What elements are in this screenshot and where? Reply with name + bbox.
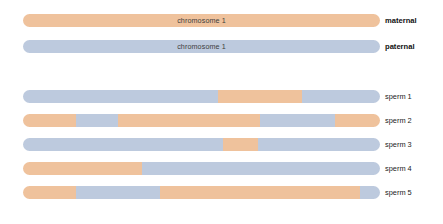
maternal-chromosome-segment-1-maternal [23, 14, 380, 27]
chromosome-row-sperm-4 [23, 162, 380, 175]
paternal-chromosome-segment-1-paternal [23, 40, 380, 53]
chromosome-row-maternal-chromosome: chromosome 1 [23, 14, 380, 27]
paternal-chromosome-label: paternal [385, 40, 415, 53]
sperm-3-segment-1-paternal [23, 138, 223, 151]
chromosome-row-sperm-2 [23, 114, 380, 127]
sperm-2-segment-1-maternal [23, 114, 76, 127]
chromosome-row-paternal-chromosome: chromosome 1 [23, 40, 380, 53]
paternal-chromosome-bar [23, 40, 380, 53]
sperm-1-segment-1-paternal [23, 90, 218, 103]
sperm-2-segment-2-paternal [76, 114, 118, 127]
sperm-4-bar [23, 162, 380, 175]
sperm-5-label: sperm 5 [385, 186, 412, 199]
sperm-2-label: sperm 2 [385, 114, 412, 127]
sperm-2-segment-4-paternal [260, 114, 335, 127]
sperm-1-segment-2-maternal [218, 90, 302, 103]
sperm-3-segment-2-maternal [223, 138, 258, 151]
sperm-4-segment-2-paternal [142, 162, 380, 175]
sperm-3-segment-3-paternal [258, 138, 380, 151]
sperm-4-segment-1-maternal [23, 162, 142, 175]
sperm-5-segment-3-maternal [160, 186, 360, 199]
chromosome-recombination-figure: chromosome 1maternalchromosome 1paternal… [0, 0, 443, 224]
sperm-1-segment-3-paternal [302, 90, 380, 103]
maternal-chromosome-label: maternal [385, 14, 417, 27]
chromosome-row-sperm-3 [23, 138, 380, 151]
chromosome-row-sperm-1 [23, 90, 380, 103]
sperm-1-bar [23, 90, 380, 103]
maternal-chromosome-bar [23, 14, 380, 27]
chromosome-row-sperm-5 [23, 186, 380, 199]
sperm-3-bar [23, 138, 380, 151]
sperm-5-segment-2-paternal [76, 186, 160, 199]
sperm-4-label: sperm 4 [385, 162, 412, 175]
sperm-2-segment-5-maternal [335, 114, 380, 127]
sperm-5-segment-1-maternal [23, 186, 76, 199]
sperm-3-label: sperm 3 [385, 138, 412, 151]
sperm-1-label: sperm 1 [385, 90, 412, 103]
sperm-2-bar [23, 114, 380, 127]
sperm-5-segment-4-paternal [360, 186, 380, 199]
sperm-2-segment-3-maternal [118, 114, 260, 127]
sperm-5-bar [23, 186, 380, 199]
